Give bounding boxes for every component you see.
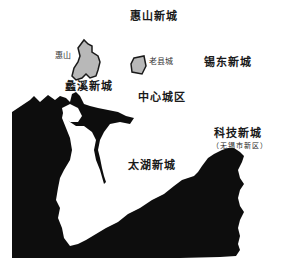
label-old-county-town: 老县城	[149, 58, 173, 66]
label-huishan-new-city: 惠山新城	[130, 11, 178, 22]
wuxi-district-map: 惠山新城 惠山 老县城 锡东新城 蠡溪新城 中心城区 科技新城 （无锡市新区） …	[0, 0, 287, 266]
label-tech-new-city: 科技新城	[214, 128, 262, 139]
label-central-district: 中心城区	[138, 92, 186, 103]
label-taihu-new-city: 太湖新城	[128, 160, 176, 171]
label-lixi-new-city: 蠡溪新城	[65, 81, 113, 92]
taihu-lake-shape	[12, 92, 244, 258]
huishan-district-shape	[72, 40, 100, 80]
old-county-town-shape	[131, 56, 146, 74]
label-huishan: 惠山	[55, 52, 71, 60]
label-tech-new-city-note: （无锡市新区）	[212, 143, 268, 150]
label-xidong-new-city: 锡东新城	[204, 57, 252, 68]
